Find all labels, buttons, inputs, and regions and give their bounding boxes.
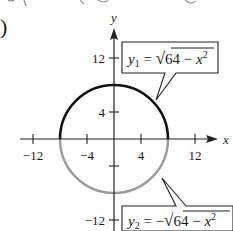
graph-figure: ) x −12 −4 4 12 y 12 4 −12 y1 = √64 (0, 0, 233, 231)
x-tick-label-neg4: −4 (80, 148, 94, 163)
y-tick-label-4: 4 (99, 105, 106, 120)
y-axis-name: y (109, 10, 117, 25)
x-tick-label-4: 4 (138, 148, 145, 163)
y-tick-label-12: 12 (92, 51, 105, 66)
x-tick-label-12: 12 (189, 148, 202, 163)
lower-equation-text: y2 = −√64 − x2 (126, 211, 216, 231)
x-tick-label-neg12: −12 (23, 148, 43, 163)
upper-equation-callout: y1 = √64 − x2 (122, 42, 218, 100)
y-axis: y 12 4 −12 (85, 10, 119, 231)
x-axis: x −12 −4 4 12 (20, 132, 229, 163)
closing-paren: ) (0, 14, 7, 39)
y-tick-label-neg12: −12 (85, 213, 105, 228)
header-fragment: ) (0, 0, 196, 39)
x-axis-name: x (222, 132, 229, 147)
